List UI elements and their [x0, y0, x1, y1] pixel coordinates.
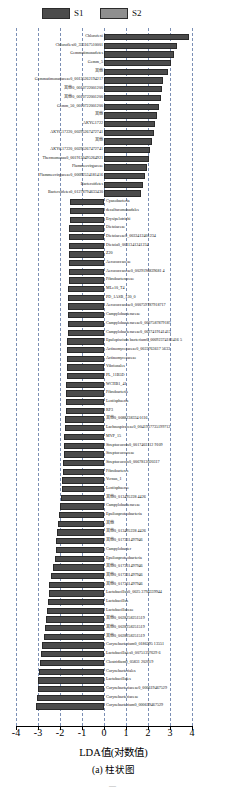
bar-label: Gemmatimonadetes [70, 50, 103, 56]
bar-label: Lactobacillus0_0025 3794339944 [106, 589, 162, 595]
bar-s1 [104, 77, 163, 83]
bar-label: Gemmatimonadaceae0_00135262194217 [35, 76, 103, 82]
bar-s2 [56, 547, 104, 553]
bar-s2 [51, 573, 104, 579]
bar-s2 [62, 477, 104, 483]
bar-label: Campylobacteraceae [106, 502, 140, 508]
bar-s2 [49, 590, 104, 596]
bar-s2 [67, 373, 104, 379]
bar-label: Fibrobacteria [106, 389, 128, 395]
bar-label: Campylobacteraceae [106, 311, 140, 317]
bar-s1 [104, 121, 155, 127]
x-axis-label: LDA值(对数值) [0, 744, 227, 759]
bar-s2 [68, 286, 104, 292]
bar-row: Lactobacillaceae [0, 608, 227, 614]
bar-label: Dietziaceae0_0033412401234 [106, 233, 156, 239]
bar-row: Flammeovirgaceae0_00092534181416 [0, 173, 227, 179]
bar-s2 [66, 399, 104, 405]
bar-label: Fibrobacteres [106, 468, 128, 474]
bar-label: Actinomycetaceae [106, 355, 136, 361]
bar-label: 其他 [95, 111, 103, 117]
bar-s1 [104, 43, 177, 49]
bar-label: Lentisphaeria [106, 398, 128, 404]
bar-row: 其他0_013495228 4426 [0, 529, 227, 535]
x-tick-label: 0 [102, 727, 107, 738]
bar-s2 [60, 503, 104, 509]
bar-s1 [104, 173, 145, 179]
bar-label: 其他0_017331497946 [106, 563, 143, 569]
bar-s2 [42, 642, 104, 648]
bar-row: Lactobacillales [0, 677, 227, 683]
bar-s2 [63, 469, 104, 475]
x-tick-label: 2 [146, 727, 151, 738]
bar-row: Fibrobacteria [0, 390, 227, 396]
bar-row: Bacteroidetes0_01278794633430 [0, 190, 227, 196]
bar-label: Aerococcaceae0_000759787918717 [106, 302, 166, 308]
bar-label: 其他0_0010722001200 [64, 94, 103, 100]
bar-s2 [69, 243, 104, 249]
plot-area: ChlorofexiChloroflexi0_353167510001Gemma… [0, 28, 227, 728]
bar-label: Campylobacter [106, 546, 131, 552]
bar-row: 其他0_017331497946 [0, 564, 227, 570]
bar-s2 [44, 634, 104, 640]
bar-row: PD_1ASB_130_0 [0, 295, 227, 301]
bar-row: 其他 [0, 112, 227, 118]
bar-label: Dietzia0_0031341241234 [106, 242, 149, 248]
bar-s1 [104, 147, 150, 153]
bar-row: Epsilonproteobacteria [0, 512, 227, 518]
bar-label: Campylobacteraceae0_0007587879187 [106, 320, 171, 326]
bar-label: Lactobacillus [106, 598, 128, 604]
bar-row: Actinomycetaceae [0, 356, 227, 362]
bar-s2 [55, 556, 105, 562]
bar-row: Fibrobacteres [0, 469, 227, 475]
bar-label: Lachnospiraceae0_0041937735199712 [106, 424, 170, 430]
bar-s2 [62, 486, 104, 492]
bar-row: 其他0_0010722001200 [0, 86, 227, 92]
legend-label-s2: S2 [132, 9, 142, 18]
bar-label: 其他0_017331497946 [106, 581, 143, 587]
bar-label: Lentisphaerae [106, 485, 129, 491]
bar-row: Lactobacillus [0, 599, 227, 605]
bar-s2 [66, 382, 104, 388]
bar-row: Thermomonas0_0019130495264921 [0, 156, 227, 162]
bar-label: desulfuromonadales [106, 207, 139, 213]
bar-s2 [57, 529, 104, 535]
bar-s1 [104, 164, 147, 170]
bar-row: 其他0_0028258251519 [0, 634, 227, 640]
x-tick-label: -1 [78, 727, 86, 738]
bar-label: WCHB1_41 [106, 381, 126, 387]
bar-label: 其他0_013495228 4426 [106, 494, 146, 500]
bar-row: PL_11B5D [0, 373, 227, 379]
page-mark: — [0, 782, 227, 790]
bar-label: MVP_15 [106, 433, 121, 439]
bar-s2 [39, 669, 104, 675]
bar-row: Lactobacillus0_0025 3794339944 [0, 590, 227, 596]
legend-swatch-s1 [42, 8, 70, 19]
lefse-lda-figure: S1 S2 ChlorofexiChloroflexi0_35316751000… [0, 0, 227, 790]
bar-row: Streptococcus0_0017403112 9109 [0, 443, 227, 449]
x-tick-label: -4 [12, 727, 20, 738]
bar-row: MLe10_T4 [0, 286, 227, 292]
bar-s1 [104, 51, 174, 57]
bar-row: Dietziaceae0_0033412401234 [0, 234, 227, 240]
bar-label: 其他 [95, 68, 103, 74]
bar-row: 其他0_0028258251519 [0, 616, 227, 622]
bar-s2 [69, 251, 104, 257]
bar-label: Streptococcus0_0017403112 9109 [106, 442, 163, 448]
bar-row: Campylobacter [0, 547, 227, 553]
bar-row: Aerococcaceae0_0029196839681 4 [0, 269, 227, 275]
bar-s2 [38, 686, 104, 692]
bar-row: Lachnospiraceae0_0041937735199712 [0, 425, 227, 431]
bar-label: Flammeovirgaceae0_00092534181416 [39, 172, 103, 178]
bar-s2 [36, 703, 104, 709]
bar-label: 其他0_0028258251519 [106, 633, 145, 639]
x-tick-label: -3 [34, 727, 42, 738]
bar-row: Streptococcus0_0067813020317 [0, 460, 227, 466]
bar-s2 [68, 330, 104, 336]
bar-s1 [104, 95, 161, 101]
bar-label: 其他0_0010722001200 [64, 85, 103, 91]
bar-row: Corynebacterium0_0186295 13551 [0, 642, 227, 648]
bar-row: 其他 [0, 138, 227, 144]
bar-label: Corynebacterium0_0186295 13551 [106, 641, 164, 647]
bar-row: AKYG1722 [0, 121, 227, 127]
